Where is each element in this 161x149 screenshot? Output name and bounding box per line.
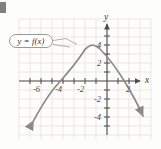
x-axis-label: x — [145, 76, 149, 86]
x-tick-label-neg4: -4 — [55, 85, 62, 94]
y-tick-label-neg2: -2 — [94, 95, 101, 104]
x-tick-label-neg6: -6 — [33, 85, 40, 94]
y-tick-label-4: 4 — [97, 41, 101, 50]
y-tick-label-2: 2 — [97, 59, 101, 68]
y-axis-label: y — [104, 13, 108, 23]
y-tick-label-neg4: -4 — [94, 113, 101, 122]
callout-pointer — [53, 39, 77, 45]
function-graph-figure: y = f(x) -6 -4 -2 2 4 2 -2 -4 x y — [0, 0, 161, 149]
x-tick-label-2: 2 — [126, 85, 130, 94]
x-tick-label-neg2: -2 — [77, 85, 84, 94]
function-label-text: y = f(x) — [9, 34, 53, 47]
graph-canvas — [0, 0, 161, 149]
